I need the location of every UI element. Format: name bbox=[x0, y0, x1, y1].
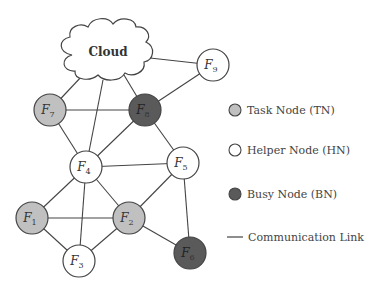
fog-nodes: F1F2F3F4F5F6F7F8F9 bbox=[16, 49, 229, 277]
legend-label: Busy Node (BN) bbox=[247, 188, 337, 201]
legend-label: Communication Link bbox=[248, 231, 364, 244]
node-f9: F9 bbox=[197, 49, 229, 81]
node-f5: F5 bbox=[167, 147, 199, 179]
legend-item-task: Task Node (TN) bbox=[229, 104, 335, 117]
legend: Task Node (TN)Helper Node (HN)Busy Node … bbox=[227, 104, 364, 244]
legend-label: Task Node (TN) bbox=[247, 104, 335, 117]
node-f7: F7 bbox=[34, 94, 66, 126]
node-f8: F8 bbox=[129, 94, 161, 126]
busy-swatch-icon bbox=[229, 188, 241, 200]
legend-item-link: Communication Link bbox=[227, 231, 364, 244]
cloud-label: Cloud bbox=[88, 45, 128, 59]
helper-swatch-icon bbox=[229, 144, 241, 156]
node-f2: F2 bbox=[113, 202, 145, 234]
legend-label: Helper Node (HN) bbox=[247, 144, 350, 157]
legend-item-helper: Helper Node (HN) bbox=[229, 144, 350, 157]
node-f4: F4 bbox=[70, 151, 102, 183]
network-diagram: Cloud F1F2F3F4F5F6F7F8F9 Task Node (TN)H… bbox=[0, 0, 379, 284]
legend-item-busy: Busy Node (BN) bbox=[229, 188, 337, 201]
node-f3: F3 bbox=[63, 245, 95, 277]
cloud-node: Cloud bbox=[61, 19, 152, 80]
node-f1: F1 bbox=[16, 202, 48, 234]
node-f6: F6 bbox=[174, 237, 206, 269]
task-swatch-icon bbox=[229, 104, 241, 116]
